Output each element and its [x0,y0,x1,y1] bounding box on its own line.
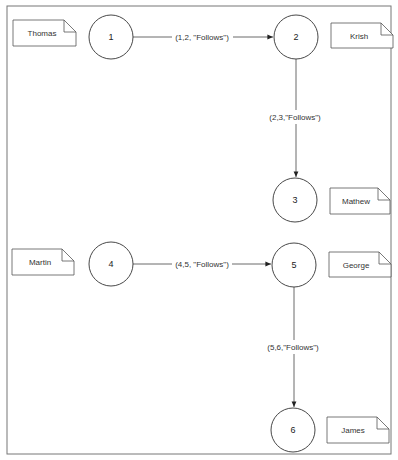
note-label: George [343,261,370,270]
note-label: Mathew [342,197,370,206]
note-label: Krish [350,32,368,41]
node-6: 6 [271,408,315,452]
node-label: 3 [292,195,297,205]
node-label: 2 [293,32,298,42]
node-2: 2 [274,15,318,59]
graph-diagram: (1,2, "Follows") (2,3,"Follows") (4,5, "… [0,0,398,460]
edge-4-5: (4,5, "Follows") [133,260,271,269]
node-label: 6 [290,425,295,435]
note-label: James [341,426,365,435]
edge-label: (1,2, "Follows") [175,33,229,42]
note-label: Thomas [28,29,57,38]
note-james: James [327,417,389,443]
node-4: 4 [89,242,133,286]
note-label: Martin [29,258,51,267]
note-martin: Martin [12,249,74,275]
note-mathew: Mathew [330,188,390,214]
node-3: 3 [273,178,317,222]
diagram-frame [7,6,391,454]
node-label: 1 [108,32,113,42]
edge-label: (5,6,"Follows") [267,343,319,352]
node-label: 4 [108,259,113,269]
edge-2-3: (2,3,"Follows") [269,59,321,177]
node-label: 5 [291,260,296,270]
note-thomas: Thomas [13,20,76,46]
node-5: 5 [272,243,316,287]
edge-5-6: (5,6,"Follows") [267,287,319,407]
edge-label: (4,5, "Follows") [175,260,229,269]
edge-1-2: (1,2, "Follows") [133,33,273,42]
node-1: 1 [89,15,133,59]
note-george: George [329,252,391,277]
note-krish: Krish [331,23,393,48]
edge-label: (2,3,"Follows") [269,113,321,122]
